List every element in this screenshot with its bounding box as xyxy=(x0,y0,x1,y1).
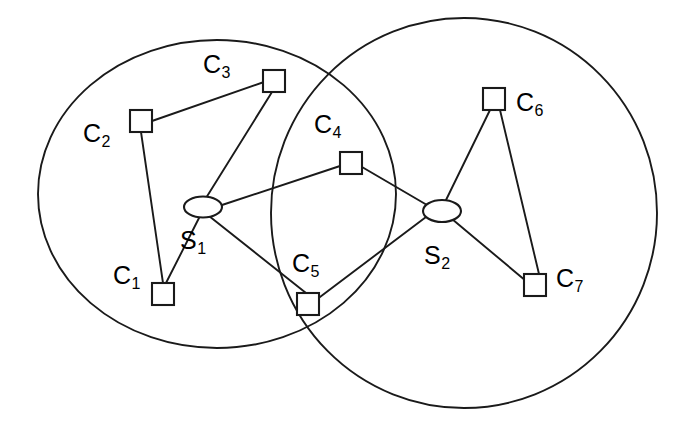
client-node-c1[interactable] xyxy=(152,283,174,305)
server-node-s1[interactable] xyxy=(184,197,222,218)
client-node-c2[interactable] xyxy=(130,110,152,132)
client-label-c6: C6 xyxy=(516,90,543,115)
client-label-subscript-c1: 1 xyxy=(132,275,141,292)
client-label-subscript-c4: 4 xyxy=(333,124,342,141)
client-label-base-c6: C xyxy=(516,88,534,116)
client-label-c4: C4 xyxy=(314,112,341,137)
client-label-c1: C1 xyxy=(113,263,140,288)
diagram-canvas: C1C2C3C4C5C6C7S1S2 xyxy=(0,0,689,430)
client-label-c7: C7 xyxy=(556,266,583,291)
server-label-base-s2: S xyxy=(424,241,441,269)
client-label-base-c3: C xyxy=(203,50,221,78)
edge-s1-c4 xyxy=(222,166,340,205)
client-label-base-c2: C xyxy=(83,119,101,147)
client-label-subscript-c3: 3 xyxy=(222,64,231,81)
edge-s2-c6 xyxy=(446,110,490,200)
edge-c3-s1 xyxy=(206,92,272,198)
server-label-subscript-s1: 1 xyxy=(197,240,206,257)
cluster-boundary-layer xyxy=(38,18,657,408)
cluster-boundary-left-cluster xyxy=(38,40,396,348)
edge-s2-c5 xyxy=(316,217,426,300)
client-label-c5: C5 xyxy=(292,251,319,276)
client-label-subscript-c5: 5 xyxy=(311,263,320,280)
client-label-base-c1: C xyxy=(113,261,131,289)
edge-c6-c7 xyxy=(500,110,539,274)
diagram-svg xyxy=(0,0,689,430)
server-label-subscript-s2: 2 xyxy=(441,255,450,272)
client-label-c3: C3 xyxy=(203,52,230,77)
server-label-s1: S1 xyxy=(180,228,206,253)
client-label-base-c7: C xyxy=(556,264,574,292)
server-label-base-s1: S xyxy=(180,226,197,254)
cluster-boundary-right-cluster xyxy=(271,18,657,408)
edge-c2-c3 xyxy=(152,82,264,121)
client-label-base-c4: C xyxy=(314,110,332,138)
client-node-c5[interactable] xyxy=(297,293,319,315)
server-node-s2[interactable] xyxy=(423,200,461,222)
client-node-c7[interactable] xyxy=(524,274,546,296)
client-node-c6[interactable] xyxy=(483,88,505,110)
edge-s2-c7 xyxy=(452,219,526,281)
client-label-c2: C2 xyxy=(83,121,110,146)
client-label-subscript-c6: 6 xyxy=(535,102,544,119)
client-node-c4[interactable] xyxy=(340,152,362,174)
client-label-base-c5: C xyxy=(292,249,310,277)
client-label-subscript-c2: 2 xyxy=(102,133,111,150)
client-label-subscript-c7: 7 xyxy=(575,278,584,295)
server-label-s2: S2 xyxy=(424,243,450,268)
edge-c2-c1 xyxy=(141,132,163,283)
client-node-c3[interactable] xyxy=(263,70,285,92)
